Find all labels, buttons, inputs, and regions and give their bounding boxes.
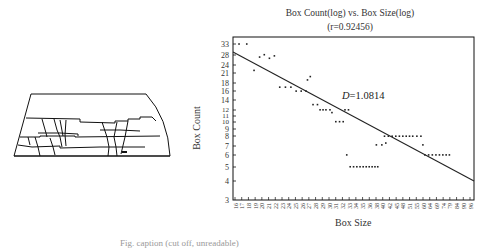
data-point [384, 135, 386, 137]
data-point [274, 55, 276, 57]
data-point [339, 121, 341, 123]
data-point [319, 109, 321, 111]
data-point [381, 144, 383, 146]
x-tick-label: 17 [239, 203, 245, 209]
x-tick-label: 42 [387, 203, 393, 209]
y-tick-label: 14 [221, 96, 229, 105]
x-tick-label: 96 [468, 203, 474, 209]
data-point [405, 135, 407, 137]
data-point [362, 166, 364, 168]
data-point [388, 135, 390, 137]
data-point [269, 57, 271, 59]
x-tick-label: 27 [306, 203, 312, 209]
x-tick-label: 20 [259, 203, 265, 209]
y-tick-label: 16 [221, 87, 229, 96]
data-point [377, 166, 379, 168]
x-tick-label: 40 [380, 203, 386, 209]
data-point [329, 109, 331, 111]
data-point [385, 142, 387, 144]
data-point [412, 135, 414, 137]
data-point [307, 79, 309, 81]
x-tick-label: 18 [246, 203, 252, 209]
y-tick-label: 6 [225, 151, 229, 160]
y-tick-label: 3 [225, 196, 229, 205]
data-point [312, 104, 314, 106]
y-tick-label: 8 [225, 132, 229, 141]
x-tick-label: 69 [434, 203, 440, 209]
data-point [290, 86, 292, 88]
data-point [424, 154, 426, 156]
data-point [295, 90, 297, 92]
data-point [349, 166, 351, 168]
x-tick-label: 31 [333, 203, 339, 209]
x-tick-label: 79 [447, 203, 453, 209]
data-point [442, 154, 444, 156]
data-point [317, 104, 319, 106]
y-tick-label: 5 [225, 163, 229, 172]
dimension-annotation: D=1.0814 [341, 90, 385, 101]
y-tick-label: 28 [221, 51, 229, 60]
x-tick-label: 34 [353, 203, 359, 209]
cross-section-drawing [14, 94, 170, 156]
data-point [439, 154, 441, 156]
data-point [391, 135, 393, 137]
y-tick-label: 33 [221, 40, 229, 49]
y-tick-label: 4 [225, 177, 229, 186]
y-tick-label: 21 [221, 69, 229, 78]
data-point [376, 144, 378, 146]
x-tick-label: 35 [360, 203, 366, 209]
x-tick-label: 38 [374, 203, 380, 209]
data-point [368, 166, 370, 168]
figure-caption: Fig. caption (cut off, unreadable) [120, 238, 239, 248]
x-tick-label: 36 [367, 203, 373, 209]
data-point [353, 166, 355, 168]
data-point [331, 112, 333, 114]
x-tick-label: 23 [280, 203, 286, 209]
x-tick-label: 28 [313, 203, 319, 209]
data-point [285, 86, 287, 88]
data-point [309, 76, 311, 78]
data-point [428, 154, 430, 156]
x-tick-label: 84 [454, 203, 460, 209]
data-point [359, 166, 361, 168]
data-point [435, 154, 437, 156]
x-tick-label: 32 [340, 203, 346, 209]
data-point [238, 43, 240, 45]
x-tick-label: 55 [414, 203, 420, 209]
data-point [409, 135, 411, 137]
data-point [445, 154, 447, 156]
data-points [238, 43, 450, 167]
x-tick-label: 60 [421, 203, 427, 209]
data-point [348, 109, 350, 111]
data-point [335, 121, 337, 123]
x-tick-label: 16 [233, 203, 239, 209]
data-point [449, 154, 451, 156]
data-point [342, 121, 344, 123]
data-point [374, 166, 376, 168]
x-tick-label: 24 [286, 203, 292, 209]
data-point [263, 54, 265, 56]
plot-area [233, 37, 474, 200]
data-point [416, 135, 418, 137]
x-tick-label: 74 [441, 203, 447, 209]
x-tick-label: 45 [394, 203, 400, 209]
data-point [322, 109, 324, 111]
data-point [305, 90, 307, 92]
x-tick-label: 26 [300, 203, 306, 209]
data-point [356, 166, 358, 168]
data-point [300, 90, 302, 92]
data-point [402, 135, 404, 137]
x-tick-label: 25 [293, 203, 299, 209]
x-tick-label: 48 [400, 203, 406, 209]
x-tick-label: 90 [461, 203, 467, 209]
x-tick-label: 19 [253, 203, 259, 209]
data-point [422, 144, 424, 146]
data-point [253, 70, 255, 72]
y-tick-label: 7 [225, 142, 229, 151]
x-axis: 1617181920212223242526272829303132333435… [233, 197, 474, 209]
data-point [399, 135, 401, 137]
x-tick-label: 22 [273, 203, 279, 209]
x-tick-label: 30 [327, 203, 333, 209]
x-tick-label: 64 [427, 203, 433, 209]
